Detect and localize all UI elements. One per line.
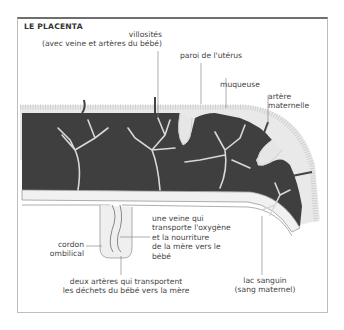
label-artere-maternelle: artère maternelle bbox=[268, 92, 309, 111]
label-lac-sanguin: lac sanguin (sang maternel) bbox=[225, 276, 305, 295]
label-cordon-ombilical: cordon ombilical bbox=[40, 240, 84, 259]
label-muqueuse: muqueuse bbox=[220, 80, 260, 89]
label-paroi-uterus: paroi de l'utérus bbox=[180, 51, 242, 60]
label-deux-arteres: deux artères qui transportent les déchet… bbox=[46, 277, 206, 296]
umbilical-cord bbox=[100, 205, 132, 258]
label-villosites: villosités (avec veine et artères du béb… bbox=[22, 30, 162, 49]
label-veine: une veine qui transporte l'oxygène et la… bbox=[152, 214, 231, 261]
